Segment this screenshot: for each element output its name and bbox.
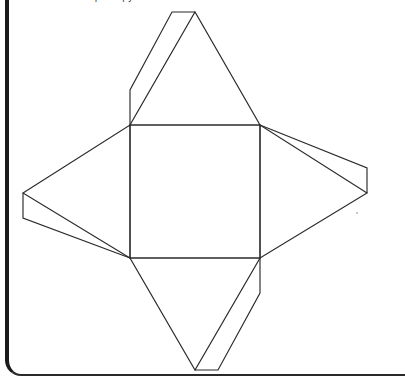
base-square-fill [130, 125, 260, 258]
scan-speck [356, 212, 358, 214]
face-right-fill [260, 125, 367, 258]
